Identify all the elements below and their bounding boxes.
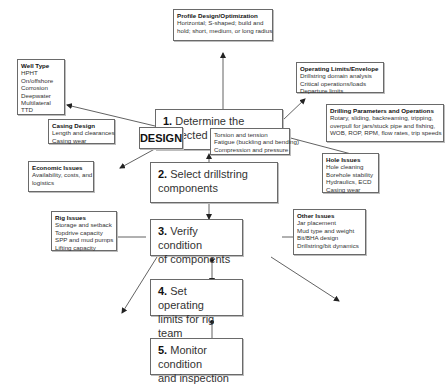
step-4-number: 4. [158, 285, 167, 297]
step-4-box: 4. Set operating limits for rig team [150, 279, 243, 316]
profile-design-title: Profile Design/Optimization [177, 12, 269, 19]
other-issues-item: Mud type and weight [297, 227, 362, 234]
loads-item: Fatigue (buckling and bending) [214, 138, 286, 145]
step-5-number: 5. [158, 344, 167, 356]
loads-item: Compression and pressure [214, 146, 286, 153]
casing-design-item: Casing wear [52, 137, 111, 144]
rig-issues-box: Rig Issues Storage and setback Topdrive … [51, 211, 117, 251]
rig-issues-item: SPP and mud pumps [55, 236, 113, 243]
operating-limits-item: Critical operations/loads [300, 80, 380, 87]
rig-issues-title: Rig Issues [55, 214, 113, 221]
well-type-item: Corrosion [21, 84, 61, 91]
step-5-box: 5. Monitor condition and inspection [150, 338, 243, 375]
operating-limits-title: Operating Limits/Envelope [300, 65, 380, 72]
economic-issues-item: Availability, costs, and [32, 171, 90, 178]
design-label: DESIGN [140, 132, 182, 144]
casing-design-title: Casing Design [52, 122, 111, 129]
hole-issues-item: Casing wear [326, 186, 375, 193]
hole-issues-title: Hole Issues [326, 156, 375, 163]
other-issues-box: Other Issues Jar placement Mud type and … [293, 209, 366, 255]
profile-design-line: Horizontal; S-shaped; build and [177, 19, 269, 26]
loads-item: Torsion and tension [214, 131, 286, 138]
well-type-item: Deepwater [21, 92, 61, 99]
well-type-item: On/offshore [21, 77, 61, 84]
economic-issues-title: Economic Issues [32, 164, 90, 171]
step-3-number: 3. [158, 225, 167, 237]
step-3-box: 3. Verify condition of components [150, 219, 243, 256]
operating-limits-item: Drillstring domain analysis [300, 72, 380, 79]
well-type-item: Multilateral [21, 99, 61, 106]
drilling-parameters-item: overpull for jars/stuck pipe and fishing… [330, 122, 440, 129]
profile-design-box: Profile Design/Optimization Horizontal; … [173, 9, 273, 41]
hole-issues-item: Hydraulics, ECD [326, 178, 375, 185]
step-2-box: 2. Select drillstring components [150, 162, 278, 203]
drillstring-design-diagram: Profile Design/Optimization Horizontal; … [0, 0, 446, 389]
step-2-text: Select drillstring [167, 168, 248, 180]
other-issues-item: Drillstring/bit dynamics [297, 242, 362, 249]
step-2-number: 2. [158, 168, 167, 180]
rig-issues-item: Lifting capacity [55, 244, 113, 251]
economic-issues-box: Economic Issues Availability, costs, and… [28, 161, 94, 192]
step-1-text: Determine the [172, 115, 244, 127]
casing-design-item: Length and clearances [52, 129, 111, 136]
well-type-item: HPHT [21, 69, 61, 76]
rig-issues-item: Storage and setback [55, 221, 113, 228]
drilling-parameters-item: Rotary, sliding, backreaming, tripping, [330, 114, 440, 121]
step-3-text-line2: of components [158, 252, 235, 266]
operating-limits-item: Departure limits [300, 87, 380, 94]
well-type-title: Well Type [21, 62, 61, 69]
operating-limits-box: Operating Limits/Envelope Drillstring do… [296, 62, 384, 93]
well-type-item: TTD [21, 106, 61, 113]
rig-issues-item: Topdrive capacity [55, 229, 113, 236]
well-type-box: Well Type HPHT On/offshore Corrosion Dee… [17, 59, 65, 115]
step-2-text-line2: components [158, 181, 270, 195]
hole-issues-box: Hole Issues Hole cleaning Borehole stabi… [322, 153, 379, 193]
loads-box: Torsion and tension Fatigue (buckling an… [210, 128, 290, 155]
design-label-box: DESIGN [139, 127, 183, 149]
step-5-text-line2: and inspection [158, 371, 235, 385]
step-1-number: 1. [163, 115, 172, 127]
other-issues-item: Jar placement [297, 219, 362, 226]
hole-issues-item: Borehole stability [326, 171, 375, 178]
casing-design-box: Casing Design Length and clearances Casi… [48, 119, 115, 144]
profile-design-line: hold; short, medium, or long radius [177, 27, 269, 34]
hole-issues-item: Hole cleaning [326, 163, 375, 170]
other-issues-item: Bit/BHA design [297, 234, 362, 241]
economic-issues-item: logistics [32, 179, 90, 186]
step-4-text-line2: limits for rig team [158, 312, 235, 340]
drilling-parameters-title: Drilling Parameters and Operations [330, 107, 440, 114]
drilling-parameters-box: Drilling Parameters and Operations Rotar… [326, 104, 444, 142]
drilling-parameters-item: WOB, ROP, RPM, flow rates, trip speeds [330, 129, 440, 136]
other-issues-title: Other Issues [297, 212, 362, 219]
